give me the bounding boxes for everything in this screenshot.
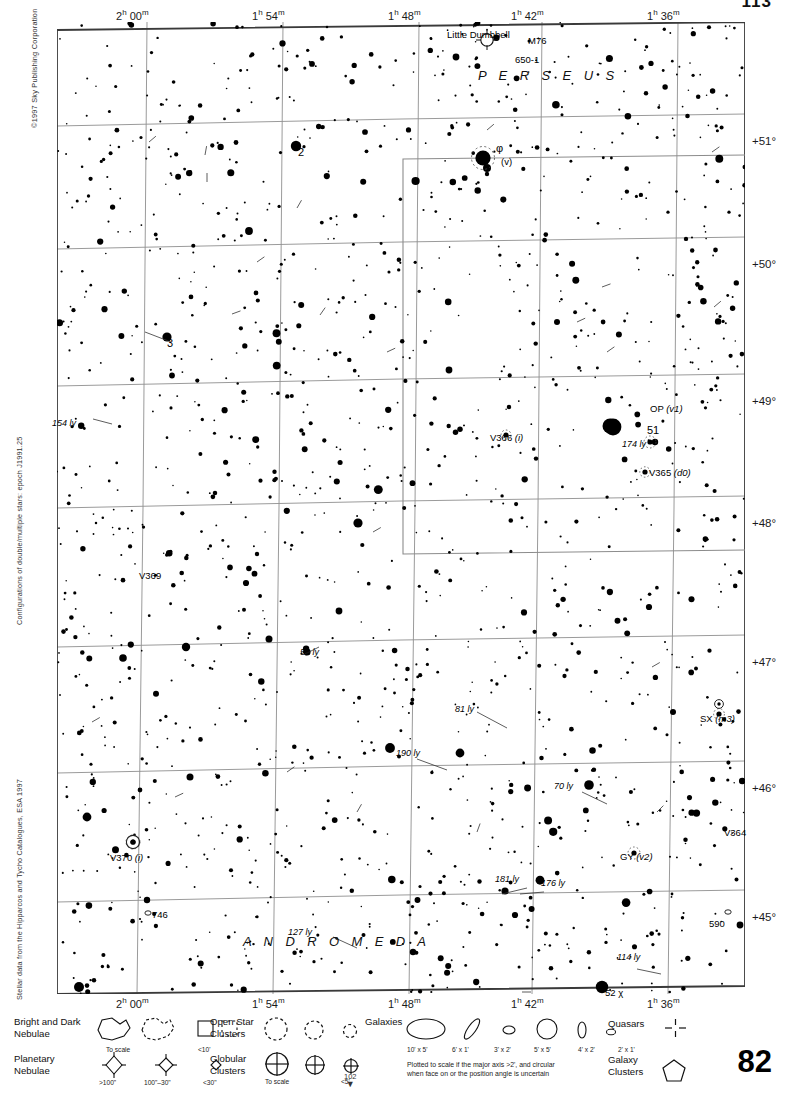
down-arrow-icon: ▼	[344, 1081, 357, 1087]
legend-pn-size-1: >100"	[99, 1079, 116, 1086]
object-label: V364	[724, 827, 746, 838]
dec-tick-label: +48°	[752, 517, 776, 529]
legend-galaxy-size-4: 5' x 5'	[534, 1046, 551, 1053]
double-star-credit: Configurations of double/multiple stars:…	[15, 437, 24, 625]
legend-galaxy-note: Plotted to scale if the major axis >2', …	[407, 1060, 555, 1078]
legend-galaxies-title: Galaxies	[365, 1016, 402, 1028]
legend-quasars-title: Quasars	[608, 1018, 644, 1030]
object-label: 176 ly	[541, 878, 565, 888]
ra-tick-label: 1h 54m	[252, 8, 285, 22]
object-label: 3	[167, 337, 173, 349]
object-label: 52 χ	[605, 987, 623, 998]
legend-galaxy-size-5: 4' x 2'	[578, 1046, 595, 1053]
object-label: 650-1	[515, 54, 539, 65]
ra-tick-label: 1h 48m	[388, 8, 421, 22]
legend-quasar-icon	[663, 1018, 689, 1038]
object-label: 590	[709, 918, 725, 929]
object-label: 127 ly	[288, 927, 312, 937]
sky-chart-area	[57, 22, 745, 994]
object-label: 81 ly	[455, 704, 474, 714]
dec-tick-label: +51°	[752, 135, 776, 147]
legend-planetary-nebulae-title: Planetary Nebulae	[14, 1053, 55, 1076]
legend-galaxy-size-1: 10' x 5'	[407, 1046, 427, 1053]
object-label: 52 ly	[300, 647, 319, 657]
legend-bright-dark-nebulae-title: Bright and Dark Nebulae	[14, 1016, 81, 1039]
object-label: 174 ly	[622, 439, 646, 449]
object-label: φ	[496, 142, 503, 154]
page-number-top: 113	[742, 0, 772, 12]
object-label: (v)	[501, 156, 512, 167]
object-label: 2	[298, 146, 304, 158]
next-page-marker: 102 ▼	[344, 1072, 357, 1087]
ra-tick-label: 1h 42m	[511, 8, 544, 22]
object-label: 114 ly	[617, 952, 640, 962]
stellar-data-credit: Stellar data from the Hipparcos and Tych…	[15, 779, 24, 1000]
object-label: M76	[528, 35, 546, 46]
legend-open-cluster-icons	[262, 1014, 372, 1046]
object-label: GY (v2)	[620, 851, 653, 862]
constellation-label: P E R S E U S	[478, 68, 619, 83]
object-label: OP (v1)	[650, 403, 683, 414]
legend-galaxy-size-6: 2' x 1'	[618, 1046, 635, 1053]
ra-tick-label: 2h 00m	[116, 8, 149, 22]
constellation-label: A N D R O M E D A	[243, 934, 430, 949]
legend-open-clusters-title: Open Star Clusters	[210, 1016, 254, 1039]
object-label: SX (m3)	[700, 713, 735, 724]
dec-tick-label: +46°	[752, 782, 776, 794]
legend-globular-clusters-title: Globular Clusters	[210, 1053, 246, 1076]
dec-tick-label: +49°	[752, 395, 776, 407]
dec-tick-label: +45°	[752, 911, 776, 923]
object-label: V370 (i)	[110, 852, 143, 863]
copyright-notice: ©1997 Sky Publishing Corporation	[30, 9, 39, 129]
dec-tick-label: +50°	[752, 258, 776, 270]
legend-galaxy-clusters-title: Galaxy Clusters	[608, 1054, 643, 1077]
ra-tick-label: 1h 36m	[647, 8, 680, 22]
dec-tick-label: +47°	[752, 656, 776, 668]
object-label: V365 (d0)	[649, 467, 691, 478]
object-label: V366 (i)	[490, 432, 523, 443]
object-label: 190 ly	[396, 748, 420, 758]
object-label: 181 ly	[495, 874, 519, 884]
star-field-svg	[57, 22, 745, 994]
page-number-bottom: 82	[738, 1044, 772, 1080]
object-label: 154 ly	[52, 418, 76, 428]
legend-pn-size-2: 100"–30"	[144, 1079, 171, 1086]
object-label: Little Dumbbell	[447, 29, 510, 40]
legend-galaxy-size-2: 6' x 1'	[452, 1046, 469, 1053]
star-chart-page: 113 ©1997 Sky Publishing Corporation Con…	[0, 0, 794, 1096]
object-label: 51	[647, 424, 659, 436]
object-label: V369	[139, 570, 161, 581]
object-label: 70 ly	[554, 781, 573, 791]
legend-globular-to-scale: To scale	[265, 1078, 289, 1085]
object-label: 746	[152, 909, 168, 920]
legend-galaxy-icons	[404, 1014, 604, 1044]
legend-pn-size-3: <30"	[203, 1079, 217, 1086]
legend-galaxy-size-3: 3' x 2'	[494, 1046, 511, 1053]
chart-legend: Bright and Dark Nebulae To scale <10' Pl…	[0, 1008, 794, 1096]
legend-galaxy-cluster-icon	[660, 1058, 690, 1084]
